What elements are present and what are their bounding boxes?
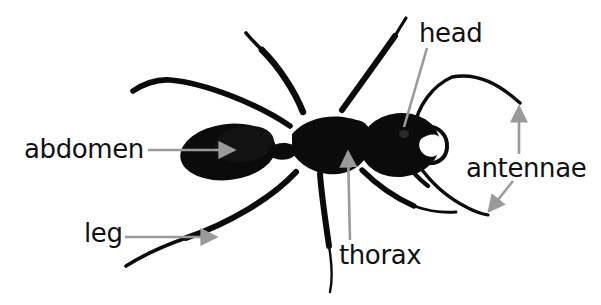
leg-upper-right — [342, 36, 395, 110]
ant-body — [126, 18, 520, 292]
ant-eye — [399, 130, 409, 138]
leg-upper-left — [133, 80, 290, 126]
label-abdomen: abdomen — [24, 136, 144, 162]
leg-lower-left-tarsus — [126, 238, 186, 266]
label-thorax: thorax — [339, 242, 421, 268]
antenna-upper — [414, 76, 520, 128]
leader-antennae-lower — [489, 181, 513, 211]
label-head: head — [419, 20, 482, 46]
leg-lower-left — [186, 172, 296, 238]
leg-upper-right-tarsus — [395, 18, 406, 36]
leg-lower-right-tarsus — [414, 206, 456, 212]
leg-lower-mid-tarsus — [329, 246, 332, 292]
leg-lower-mid — [320, 174, 329, 246]
label-leg: leg — [84, 220, 123, 246]
label-antennae: antennae — [466, 155, 586, 181]
leg-upper-mid-tarsus — [246, 33, 262, 50]
ant-anatomy-diagram: abdomen leg thorax head antennae — [0, 0, 601, 305]
leg-upper-mid — [262, 50, 303, 112]
